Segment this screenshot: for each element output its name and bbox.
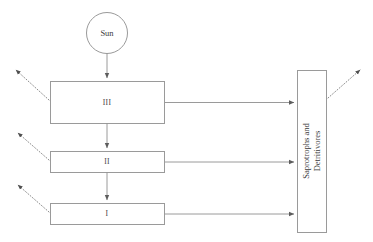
diagram-canvas: Sun III II I Saprotrophs and Detritivore… — [0, 0, 373, 242]
energy-flow-diagram: Sun III II I Saprotrophs and Detritivore… — [0, 0, 373, 242]
saprotrophs-label-line1: Saprotrophs and — [301, 123, 311, 179]
trophic-level-three-label: III — [103, 98, 112, 107]
trophic-level-three: III — [51, 82, 165, 124]
energy-loss-arrow-saprotrophs — [328, 70, 360, 98]
sun-label: Sun — [100, 28, 114, 38]
trophic-level-two: II — [51, 152, 165, 173]
energy-loss-arrow-level-three — [16, 70, 49, 100]
saprotrophs-label-line2: Detritivores — [312, 131, 322, 172]
saprotrophs-detritivores-node: Saprotrophs and Detritivores — [298, 71, 327, 233]
trophic-level-one: I — [51, 204, 165, 225]
trophic-level-two-label: II — [104, 157, 110, 166]
sun-node: Sun — [87, 13, 128, 54]
trophic-level-one-label: I — [106, 209, 109, 218]
energy-loss-arrow-level-two — [18, 133, 49, 160]
energy-loss-arrow-level-one — [18, 185, 49, 212]
